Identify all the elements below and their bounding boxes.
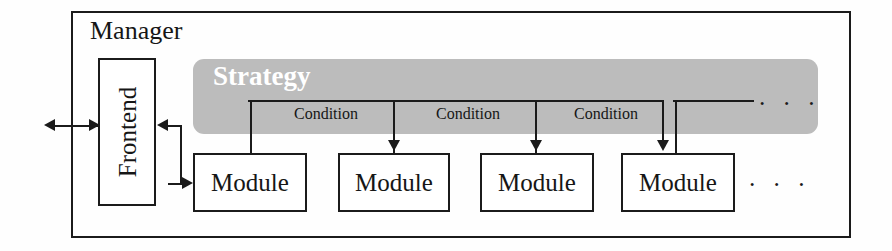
manager-label: Manager [90, 18, 182, 44]
condition-1-riser [250, 100, 252, 155]
external-arrow-head-left [44, 119, 55, 131]
module-label: Module [639, 170, 717, 195]
diagram-canvas: Manager Frontend Strategy Condition Cond… [0, 0, 892, 251]
condition-3-arrowhead [657, 140, 669, 151]
module-label: Module [498, 170, 576, 195]
condition-trailing-span [673, 100, 754, 102]
frontend-label: Frontend [115, 87, 140, 177]
module-to-frontend-vertical [180, 125, 182, 183]
condition-2-label: Condition [405, 106, 531, 122]
module-box-2[interactable]: Module [338, 153, 450, 212]
condition-2-span [391, 100, 537, 102]
condition-3-span [533, 100, 664, 102]
modules-ellipsis: · · · [748, 172, 810, 197]
condition-1-span [248, 100, 395, 102]
module-box-3[interactable]: Module [480, 153, 594, 212]
condition-2-riser [393, 100, 395, 155]
frontend-to-module-arrowhead [182, 177, 193, 189]
condition-3-riser [535, 100, 537, 155]
strategy-ellipsis: · · · [758, 91, 820, 116]
frontend-box: Frontend [98, 58, 156, 206]
module-to-frontend-arrowhead [157, 119, 168, 131]
strategy-panel: Strategy [193, 59, 818, 134]
module-to-frontend-horizontal [168, 125, 182, 127]
module-box-1[interactable]: Module [193, 153, 307, 212]
condition-1-label: Condition [263, 106, 389, 122]
module-label: Module [211, 170, 289, 195]
condition-3-label: Condition [547, 106, 665, 122]
condition-trailing-riser [675, 100, 677, 155]
module-box-4[interactable]: Module [621, 153, 735, 212]
strategy-label: Strategy [213, 63, 310, 90]
module-label: Module [355, 170, 433, 195]
